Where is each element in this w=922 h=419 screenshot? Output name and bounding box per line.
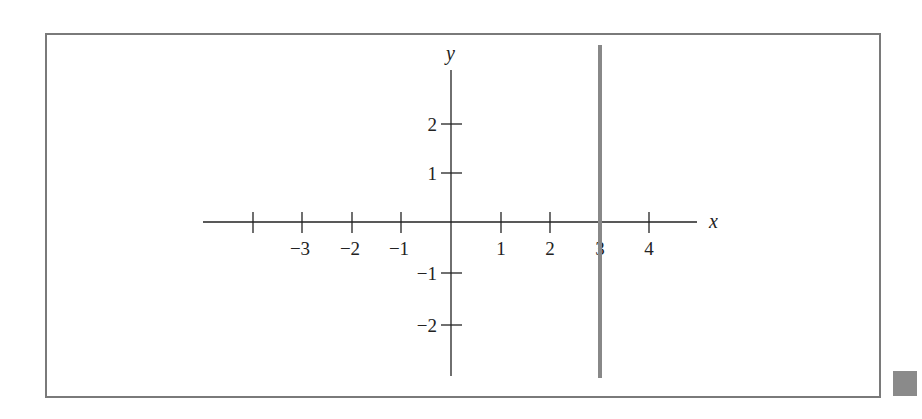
corner-square-marker — [893, 371, 917, 396]
x-tick-label: 1 — [496, 238, 506, 259]
x-tick-label: −1 — [389, 238, 409, 259]
y-tick-label: 1 — [428, 163, 438, 184]
y-tick-label: 2 — [428, 114, 438, 135]
y-axis-label: y — [444, 42, 455, 65]
x-tick-label: 2 — [545, 238, 555, 259]
x-tick-label: −3 — [290, 238, 310, 259]
x-tick-label: 4 — [644, 238, 654, 259]
coordinate-plane: −3 −2 −1 1 2 3 4 2 1 −1 −2 x y — [0, 0, 922, 419]
x-axis-label: x — [708, 210, 718, 232]
y-tick-label: −1 — [417, 263, 437, 284]
x-tick-label: −2 — [340, 238, 360, 259]
y-tick-label: −2 — [417, 315, 437, 336]
